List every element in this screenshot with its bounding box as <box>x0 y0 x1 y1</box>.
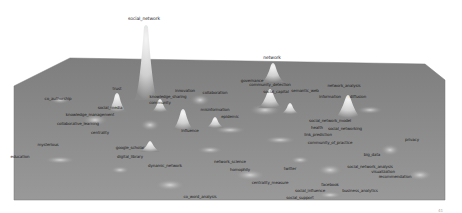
density-blob <box>140 119 160 131</box>
term-label[interactable]: knowledge_sharing <box>150 95 187 99</box>
density-blob <box>197 146 223 154</box>
term-label[interactable]: knowledge_management <box>66 113 114 117</box>
term-label[interactable]: network_analysis <box>328 84 361 88</box>
term-label[interactable]: twitter <box>284 167 297 171</box>
term-label[interactable]: link_prediction <box>304 133 332 137</box>
term-label[interactable]: facebook <box>321 183 338 187</box>
density-blob <box>154 179 186 191</box>
term-label[interactable]: education <box>11 155 30 159</box>
term-label[interactable]: centrality <box>91 131 109 135</box>
density-blob <box>110 166 130 174</box>
density-blob <box>380 144 400 156</box>
term-label[interactable]: health <box>311 126 323 130</box>
term-label[interactable]: semantic_web <box>291 89 318 93</box>
term-label[interactable]: privacy <box>405 138 419 142</box>
density-blob <box>357 106 383 114</box>
term-label[interactable]: social_influence <box>295 189 325 193</box>
density-blob <box>290 156 310 164</box>
term-label[interactable]: social_media <box>98 106 123 110</box>
density-blob <box>317 164 343 176</box>
term-label[interactable]: community_of_practice <box>308 141 353 145</box>
term-label[interactable]: centrality_measure <box>252 181 289 185</box>
term-label[interactable]: information <box>319 95 341 99</box>
term-label[interactable]: social_network <box>128 17 160 21</box>
term-label[interactable]: dynamic_network <box>148 164 182 168</box>
term-label[interactable]: social_networking <box>328 127 362 131</box>
term-label[interactable]: big_data <box>364 153 380 157</box>
term-label[interactable]: community <box>149 101 171 105</box>
term-label[interactable]: influence <box>181 129 198 133</box>
term-label[interactable]: network_science <box>214 160 246 164</box>
term-label[interactable]: collaborative_learning <box>57 122 99 126</box>
density-blob <box>44 156 76 164</box>
term-label[interactable]: business_analytics <box>342 189 378 193</box>
term-label[interactable]: community_detection <box>249 83 291 87</box>
term-label[interactable]: social_support <box>286 196 313 200</box>
term-label[interactable]: misinformation <box>201 108 230 112</box>
term-label[interactable]: network <box>263 56 281 60</box>
term-label[interactable]: innovation <box>175 89 195 93</box>
term-label[interactable]: homophily <box>230 168 250 172</box>
density-blob <box>264 136 296 144</box>
term-label[interactable]: co_word_analysis <box>183 195 216 199</box>
term-label[interactable]: trust <box>113 87 122 91</box>
term-label[interactable]: social_capital <box>263 90 288 94</box>
term-label[interactable]: diffusion <box>350 95 366 99</box>
term-label[interactable]: co_authorship <box>45 97 72 101</box>
term-label[interactable]: epidemic <box>221 115 239 119</box>
term-label[interactable]: mysterious <box>37 143 58 147</box>
term-label[interactable]: digital_library <box>117 155 143 159</box>
term-label[interactable]: social_network_model <box>309 119 351 123</box>
density-blob <box>190 94 210 106</box>
density-landscape <box>0 0 462 213</box>
page-marker: 41 <box>438 208 443 213</box>
term-label[interactable]: recommendation <box>379 175 412 179</box>
term-label[interactable]: collaboration <box>203 91 228 95</box>
term-label[interactable]: governance <box>241 79 264 83</box>
term-label[interactable]: google_scholar <box>116 146 145 150</box>
